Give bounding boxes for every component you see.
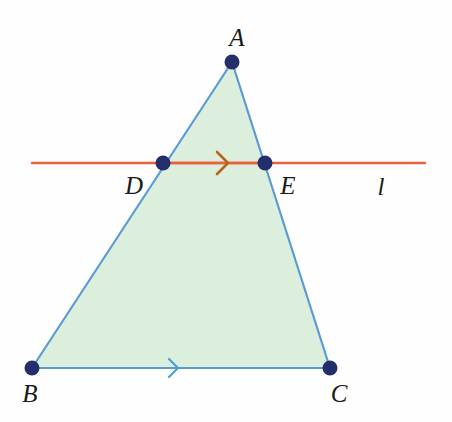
point-e-dot xyxy=(258,156,273,171)
figure-canvas xyxy=(0,0,452,422)
point-a-label: A xyxy=(229,25,244,50)
point-d-label: D xyxy=(125,173,143,198)
point-d-dot xyxy=(156,156,171,171)
triangle-abc-shape xyxy=(32,62,330,368)
point-b-dot xyxy=(25,361,40,376)
point-a-dot xyxy=(225,55,240,70)
point-e-label: E xyxy=(280,173,295,198)
geometry-figure: A B C D E l xyxy=(0,0,452,422)
point-b-label: B xyxy=(22,381,37,406)
point-c-label: C xyxy=(331,381,348,406)
line-l-label: l xyxy=(378,174,385,199)
point-c-dot xyxy=(323,361,338,376)
